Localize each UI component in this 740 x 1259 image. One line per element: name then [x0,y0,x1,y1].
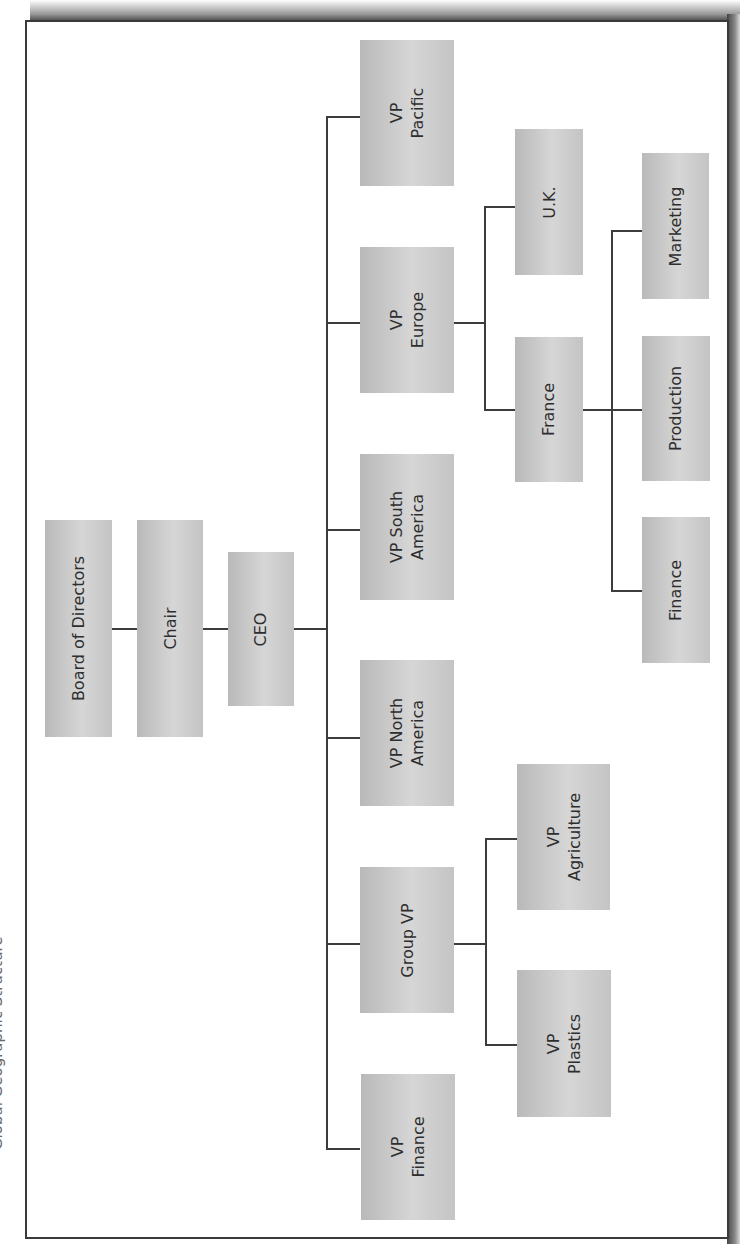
node-vp-north-america: VP North America [360,660,454,806]
node-france: France [515,337,583,482]
node-ceo: CEO [228,552,294,706]
node-group-vp: Group VP [360,867,454,1013]
node-vp-south-america: VP South America [360,454,454,600]
node-production: Production [642,336,710,481]
connector-groupvp-trunk [454,943,485,945]
node-label: Group VP [396,903,417,977]
caption-text: Global Geographic Structure [0,936,6,1150]
trunk-france [611,230,613,590]
node-label: Board of Directors [68,556,89,701]
node-vp-agriculture: VP Agriculture [517,764,610,910]
node-vp-plastics: VP Plastics [517,970,611,1117]
connector-uk [484,206,515,208]
node-label: U.K. [539,186,560,218]
node-label: VP North America [386,698,428,768]
node-label: VP Agriculture [543,793,585,881]
trunk-level2 [326,116,328,1148]
node-label: VP Pacific [386,88,428,139]
diagram-frame [25,20,729,1239]
node-label: Marketing [665,186,686,266]
node-label: France [538,383,559,436]
frame-shadow-top [30,0,740,20]
connector-vp-plastics [485,1044,517,1046]
node-label: VP Finance [387,1116,429,1177]
connector-vp-north-america [326,737,360,739]
node-label: CEO [251,612,272,646]
node-label: VP Europe [386,292,428,348]
connector-vp-finance [326,1148,360,1150]
connector-board-chair [112,628,137,630]
node-uk: U.K. [515,129,583,275]
connector-group-vp [326,943,360,945]
trunk-europe [484,206,486,409]
node-finance: Finance [642,517,710,663]
connector-vp-agriculture [485,838,517,840]
connector-vp-south-america [326,529,360,531]
connector-france [484,409,515,411]
connector-europe-trunk [454,322,484,324]
node-marketing: Marketing [642,153,709,299]
node-vp-europe: VP Europe [360,247,454,393]
node-vp-pacific: VP Pacific [360,40,454,186]
connector-marketing [611,230,642,232]
connector-finance [611,590,642,592]
trunk-group-vp [485,838,487,1044]
node-vp-finance: VP Finance [361,1074,455,1220]
connector-ceo-trunk [294,628,326,630]
connector-vp-europe [326,322,360,324]
connector-chair-ceo [203,628,228,630]
node-label: VP Plastics [543,1013,585,1073]
node-label: Chair [159,607,180,649]
node-label: Finance [666,559,687,620]
connector-vp-pacific [326,116,360,118]
node-board-of-directors: Board of Directors [45,520,112,737]
node-chair: Chair [137,520,203,737]
connector-france-trunk [583,409,642,411]
node-label: Production [666,366,687,451]
node-label: VP South America [386,491,428,563]
